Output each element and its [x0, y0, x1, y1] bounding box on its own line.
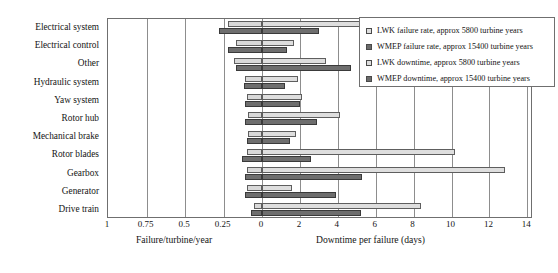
legend-label: WMEP failure rate, approx 15400 turbine …	[377, 42, 533, 51]
bar-wmep-failure-rate	[244, 83, 262, 89]
bar-lwk-failure-rate	[247, 149, 262, 155]
bar-lwk-failure-rate	[234, 58, 262, 64]
bar-lwk-downtime	[262, 76, 298, 82]
left-axis-title: Failure/turbine/year	[136, 234, 212, 245]
tick-left-axis: 0.25	[215, 219, 231, 229]
bar-lwk-downtime	[262, 40, 294, 46]
bar-wmep-failure-rate	[245, 119, 262, 125]
category-label: Gearbox	[67, 168, 99, 178]
bar-lwk-failure-rate	[228, 21, 262, 27]
tick-left-axis: 0.75	[138, 219, 154, 229]
bar-wmep-downtime	[262, 101, 300, 107]
tick-right-axis: 4	[335, 219, 340, 229]
bar-wmep-downtime	[262, 174, 362, 180]
bar-lwk-failure-rate	[236, 40, 262, 46]
category-axis-labels: Electrical systemElectrical controlOther…	[0, 18, 103, 218]
bar-group	[108, 128, 531, 146]
tick-right-axis: 14	[522, 219, 531, 229]
tick-left-axis: 1	[105, 219, 110, 229]
bar-lwk-failure-rate	[248, 112, 262, 118]
bar-wmep-failure-rate	[228, 47, 262, 53]
bar-lwk-downtime	[262, 58, 326, 64]
category-label: Mechanical brake	[33, 131, 99, 141]
bar-wmep-failure-rate	[245, 101, 262, 107]
chart-figure: Electrical systemElectrical controlOther…	[0, 0, 558, 273]
bar-wmep-downtime	[262, 192, 336, 198]
bar-group	[108, 164, 531, 182]
bar-wmep-downtime	[262, 156, 311, 162]
bar-wmep-failure-rate	[242, 156, 262, 162]
legend-item: LWK failure rate, approx 5800 turbine ye…	[366, 23, 549, 38]
legend-label: LWK failure rate, approx 5800 turbine ye…	[377, 26, 523, 35]
legend-swatch-icon	[366, 76, 372, 82]
bar-lwk-failure-rate	[248, 131, 262, 137]
bar-lwk-downtime	[262, 185, 292, 191]
legend-swatch-icon	[366, 60, 372, 66]
bar-wmep-downtime	[262, 138, 290, 144]
bar-group	[108, 183, 531, 201]
legend-item: WMEP failure rate, approx 15400 turbine …	[366, 39, 549, 54]
bar-lwk-downtime	[262, 21, 374, 27]
category-label: Rotor hub	[62, 113, 99, 123]
bar-wmep-downtime	[262, 119, 317, 125]
legend-swatch-icon	[366, 44, 372, 50]
bar-wmep-failure-rate	[247, 138, 262, 144]
bar-wmep-failure-rate	[245, 192, 262, 198]
bar-wmep-failure-rate	[251, 210, 262, 216]
bar-lwk-failure-rate	[254, 203, 262, 209]
bar-wmep-failure-rate	[245, 174, 262, 180]
bar-wmep-downtime	[262, 28, 319, 34]
bar-lwk-failure-rate	[245, 76, 262, 82]
tick-right-axis: 6	[372, 219, 377, 229]
legend-label: WMEP downtime, approx 15400 turbine year…	[377, 74, 530, 83]
tick-right-axis: 0	[259, 219, 264, 229]
x-axis-ticks: 10.750.50.2502468101214	[107, 219, 532, 233]
category-label: Yaw system	[54, 95, 99, 105]
bar-lwk-downtime	[262, 94, 302, 100]
legend: LWK failure rate, approx 5800 turbine ye…	[359, 17, 555, 87]
tick-left-axis: 0.5	[178, 219, 189, 229]
bar-wmep-failure-rate	[219, 28, 262, 34]
category-label: Rotor blades	[52, 149, 99, 159]
bar-lwk-downtime	[262, 112, 340, 118]
bar-lwk-failure-rate	[247, 94, 262, 100]
category-label: Electrical system	[35, 22, 99, 32]
right-axis-title: Downtime per failure (days)	[316, 234, 425, 245]
bar-wmep-downtime	[262, 65, 351, 71]
bar-lwk-failure-rate	[247, 185, 262, 191]
tick-right-axis: 10	[446, 219, 455, 229]
legend-label: LWK downtime, approx 5800 turbine years	[377, 58, 520, 67]
bar-group	[108, 92, 531, 110]
category-label: Other	[78, 58, 99, 68]
bar-wmep-failure-rate	[236, 65, 262, 71]
category-label: Drive train	[58, 204, 99, 214]
bar-wmep-downtime	[262, 210, 361, 216]
bar-wmep-downtime	[262, 83, 285, 89]
bar-group	[108, 110, 531, 128]
bar-lwk-downtime	[262, 149, 455, 155]
legend-swatch-icon	[366, 28, 372, 34]
bar-group	[108, 146, 531, 164]
legend-item: LWK downtime, approx 5800 turbine years	[366, 55, 549, 70]
bar-group	[108, 201, 531, 219]
tick-right-axis: 12	[484, 219, 493, 229]
bar-lwk-downtime	[262, 203, 421, 209]
legend-item: WMEP downtime, approx 15400 turbine year…	[366, 71, 549, 86]
tick-right-axis: 8	[410, 219, 415, 229]
bar-lwk-downtime	[262, 167, 505, 173]
bar-lwk-downtime	[262, 131, 296, 137]
category-label: Electrical control	[35, 40, 99, 50]
category-label: Hydraulic system	[34, 77, 99, 87]
bar-lwk-failure-rate	[247, 167, 262, 173]
category-label: Generator	[62, 186, 99, 196]
bar-wmep-downtime	[262, 47, 287, 53]
tick-right-axis: 2	[297, 219, 302, 229]
